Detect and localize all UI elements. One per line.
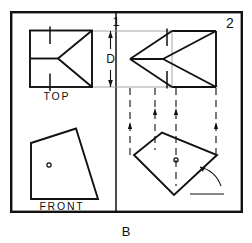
technical-drawing-figure: D 1 2 [0,0,252,243]
panel-1-label: 1 [112,14,119,29]
panel-2-label: 2 [226,15,234,31]
front-view-label: FRONT [39,200,84,212]
drawing-canvas: D 1 2 [0,0,252,243]
paper-background [0,0,252,243]
top-view-label: TOP [44,90,71,102]
dimension-d-label: D [106,52,115,66]
plate-label: B [122,224,131,239]
